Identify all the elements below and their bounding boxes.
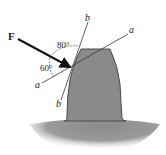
diagram-canvas [0, 0, 166, 155]
gear-tooth [64, 49, 126, 121]
gear-tooth-diagram: F 80° 60° b b a a [0, 0, 166, 155]
angle-60-label: 60° [40, 64, 53, 73]
axis-b-bottom-label: b [56, 99, 61, 109]
force-label: F [8, 31, 15, 42]
gear-base [30, 120, 160, 153]
angle-80-label: 80° [57, 41, 70, 50]
axis-a-top-label: a [129, 25, 134, 35]
axis-a-bottom-label: a [35, 80, 40, 90]
axis-b-top-label: b [85, 13, 90, 23]
